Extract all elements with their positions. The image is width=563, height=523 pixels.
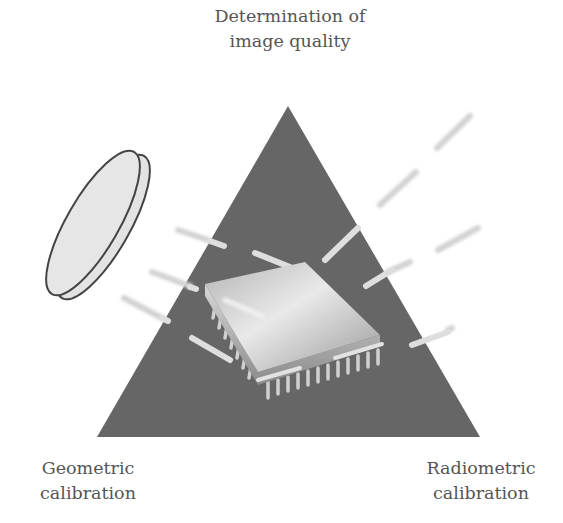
label-radiometric-calibration: Radiometric calibration [406, 456, 556, 506]
label-geometric-line2: calibration [18, 481, 158, 506]
label-radiometric-line1: Radiometric [406, 456, 556, 481]
calibration-diagram [0, 0, 563, 523]
label-image-quality: Determination of image quality [190, 4, 390, 54]
label-radiometric-line2: calibration [406, 481, 556, 506]
label-geometric-calibration: Geometric calibration [18, 456, 158, 506]
label-image-quality-line1: Determination of [190, 4, 390, 29]
lens-icon [29, 139, 166, 311]
label-image-quality-line2: image quality [190, 29, 390, 54]
label-geometric-line1: Geometric [18, 456, 158, 481]
